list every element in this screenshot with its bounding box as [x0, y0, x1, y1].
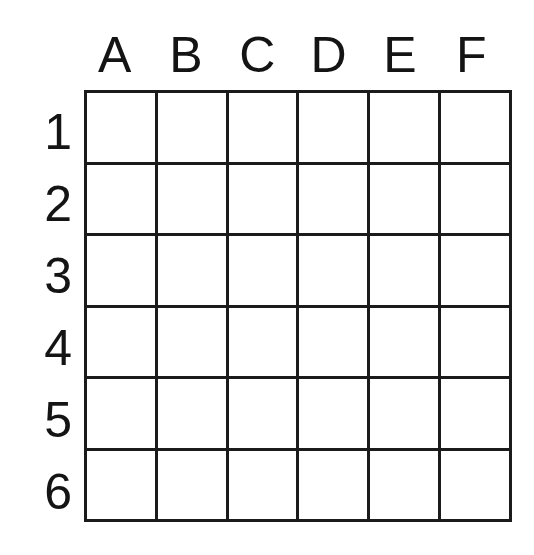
- row-label-text: 3: [44, 251, 72, 301]
- grid-cell-a6[interactable]: [87, 451, 158, 523]
- grid-cell-e4[interactable]: [370, 308, 441, 380]
- column-header-a: A: [84, 28, 155, 80]
- row-label-text: 1: [44, 107, 72, 157]
- column-header-d: D: [298, 28, 369, 80]
- grid-cell-e1[interactable]: [370, 93, 441, 165]
- grid-cell-b6[interactable]: [158, 451, 229, 523]
- column-header-e: E: [369, 28, 440, 80]
- grid-cell-a4[interactable]: [87, 308, 158, 380]
- grid-cell-d2[interactable]: [299, 165, 370, 237]
- grid-cell-b1[interactable]: [158, 93, 229, 165]
- grid-cell-e3[interactable]: [370, 236, 441, 308]
- grid-cell-f4[interactable]: [441, 308, 512, 380]
- grid-row: [87, 236, 512, 308]
- grid-cell-b4[interactable]: [158, 308, 229, 380]
- grid-cell-d5[interactable]: [299, 379, 370, 451]
- grid-cell-e5[interactable]: [370, 379, 441, 451]
- grid-cell-d4[interactable]: [299, 308, 370, 380]
- grid-cell-a5[interactable]: [87, 379, 158, 451]
- row-label-column: 1 2 3 4 5 6: [20, 90, 76, 522]
- grid-cell-d6[interactable]: [299, 451, 370, 523]
- grid-cell-e2[interactable]: [370, 165, 441, 237]
- grid-row: [87, 93, 512, 165]
- row-label-6: 6: [20, 450, 76, 522]
- grid-cell-b5[interactable]: [158, 379, 229, 451]
- column-header-label: B: [169, 30, 202, 80]
- column-header-label: C: [239, 30, 275, 80]
- grid-cell-f6[interactable]: [441, 451, 512, 523]
- row-label-3: 3: [20, 234, 76, 306]
- grid-cell-c3[interactable]: [229, 236, 300, 308]
- grid-row: [87, 379, 512, 451]
- grid-cell-a2[interactable]: [87, 165, 158, 237]
- row-label-2: 2: [20, 162, 76, 234]
- column-header-label: A: [98, 30, 131, 80]
- row-label-5: 5: [20, 378, 76, 450]
- column-header-label: D: [311, 30, 347, 80]
- grid-cell-c2[interactable]: [229, 165, 300, 237]
- row-label-4: 4: [20, 306, 76, 378]
- grid-cell-c4[interactable]: [229, 308, 300, 380]
- grid-cell-f2[interactable]: [441, 165, 512, 237]
- grid-cell-c6[interactable]: [229, 451, 300, 523]
- grid-row: [87, 451, 512, 523]
- grid-cell-b3[interactable]: [158, 236, 229, 308]
- grid-cell-c1[interactable]: [229, 93, 300, 165]
- grid-cell-a3[interactable]: [87, 236, 158, 308]
- column-header-c: C: [227, 28, 298, 80]
- grid-cell-a1[interactable]: [87, 93, 158, 165]
- grid-cell-d1[interactable]: [299, 93, 370, 165]
- row-label-text: 6: [44, 467, 72, 517]
- grid-cell-f1[interactable]: [441, 93, 512, 165]
- column-header-row: A B C D E F: [84, 28, 512, 80]
- row-label-text: 2: [44, 179, 72, 229]
- column-header-label: E: [383, 30, 416, 80]
- grid-cell-b2[interactable]: [158, 165, 229, 237]
- grid-table: [84, 90, 512, 522]
- column-header-f: F: [441, 28, 512, 80]
- grid-figure: A B C D E F 1 2 3 4 5: [0, 0, 534, 555]
- grid-cell-e6[interactable]: [370, 451, 441, 523]
- column-header-b: B: [155, 28, 226, 80]
- grid-cell-c5[interactable]: [229, 379, 300, 451]
- grid-row: [87, 308, 512, 380]
- column-header-label: F: [456, 30, 487, 80]
- row-label-text: 4: [44, 323, 72, 373]
- row-label-text: 5: [44, 395, 72, 445]
- grid-row: [87, 165, 512, 237]
- grid-cell-f3[interactable]: [441, 236, 512, 308]
- grid-cell-d3[interactable]: [299, 236, 370, 308]
- row-label-1: 1: [20, 90, 76, 162]
- grid-cell-f5[interactable]: [441, 379, 512, 451]
